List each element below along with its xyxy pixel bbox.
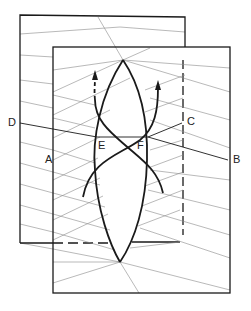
back-sheet <box>20 15 185 243</box>
diagram-drawing <box>0 0 251 311</box>
left-arrowhead-icon <box>92 70 98 80</box>
line-d-e <box>20 123 97 137</box>
label-e: E <box>98 140 105 151</box>
label-b: B <box>233 154 240 165</box>
label-a: A <box>45 154 52 165</box>
line-f-b <box>148 137 228 160</box>
right-arrowhead-icon <box>155 80 161 90</box>
diagram-canvas: D A E F C B <box>0 0 251 311</box>
label-c: C <box>187 116 195 127</box>
front-sheet-hatching <box>53 48 230 293</box>
lens-shape <box>94 60 147 262</box>
label-f: F <box>137 140 144 151</box>
label-d: D <box>8 117 16 128</box>
